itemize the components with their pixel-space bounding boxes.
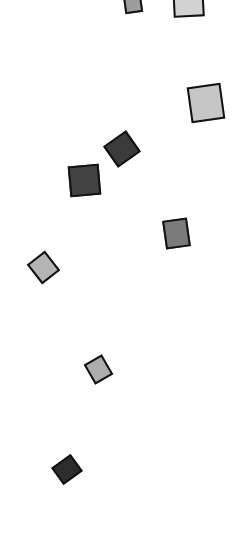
tile-bottom-dark [51, 454, 83, 485]
tile-mid-gray [162, 217, 191, 249]
tile-small-light [84, 354, 114, 384]
tile-top-light [172, 0, 205, 18]
tile-left-light-diamond [27, 251, 61, 285]
tile-dark-diamond [103, 130, 141, 167]
tile-dark-square [68, 164, 102, 198]
tile-top-small-gray [123, 0, 143, 14]
tile-right-large-light [187, 83, 226, 123]
image-canvas [0, 0, 242, 545]
